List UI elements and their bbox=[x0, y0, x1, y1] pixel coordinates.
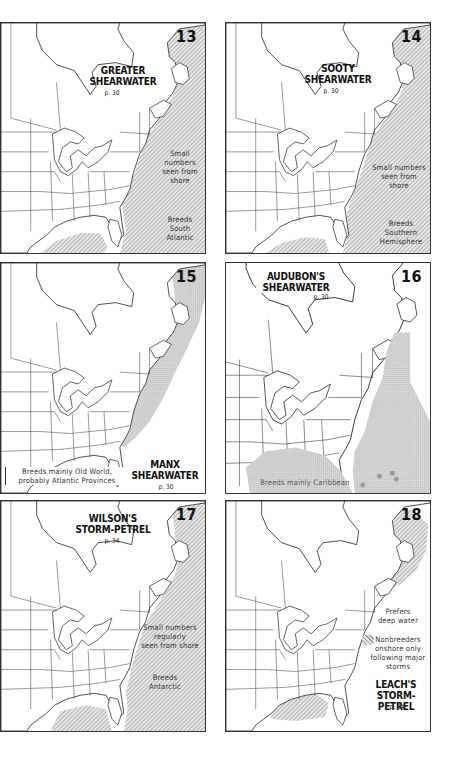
map-note-2: BreedsSouthAtlantic bbox=[153, 215, 206, 242]
species-name: GREATERSHEARWATER bbox=[73, 65, 173, 87]
species-name: WILSON'SSTORM-PETREL bbox=[63, 513, 163, 535]
page-reference: p. 34 bbox=[97, 537, 127, 545]
map-panel-16: 16 AUDUBON'SSHEARWATER p. 30 Breeds main… bbox=[225, 262, 431, 494]
map-panel-14: 14 SOOTYSHEARWATER p. 30 Small numbersse… bbox=[225, 22, 431, 254]
map-number: 14 bbox=[401, 27, 422, 46]
map-note-2: BreedsAntarctic bbox=[135, 673, 195, 691]
map-panel-13: 13 GREATERSHEARWATER p. 30 Smallnumberss… bbox=[0, 22, 206, 254]
species-name: MANXSHEARWATER bbox=[125, 459, 205, 481]
map-number: 15 bbox=[176, 267, 197, 286]
map-note-1: Breeds mainly Caribbean bbox=[250, 478, 360, 487]
map-note-1: Small numbersseen fromshore bbox=[366, 163, 431, 190]
page-reference: p. 30 bbox=[316, 87, 346, 95]
map-note-1: Breeds mainly Old World,probably Atlanti… bbox=[5, 467, 126, 485]
map-number: 16 bbox=[401, 267, 422, 286]
species-name: AUDUBON'SSHEARWATER bbox=[256, 271, 336, 293]
map-note-2: Nonbreedersonshore onlyfollowing majorst… bbox=[366, 635, 430, 671]
range-map bbox=[1, 501, 205, 731]
map-number: 18 bbox=[401, 505, 422, 524]
map-panel-15: 15 MANXSHEARWATER p. 30 Breeds mainly Ol… bbox=[0, 262, 206, 494]
range-area-gulf bbox=[41, 233, 108, 253]
map-note-2: BreedsSouthernHemisphere bbox=[372, 219, 430, 246]
map-number: 17 bbox=[176, 505, 197, 524]
page-reference: p. 30 bbox=[97, 89, 127, 97]
map-panel-18: 18 Prefersdeep water Nonbreedersonshore … bbox=[225, 500, 431, 732]
map-panel-17: 17 WILSON'SSTORM-PETREL p. 34 Small numb… bbox=[0, 500, 206, 732]
map-number: 13 bbox=[176, 27, 197, 46]
page-reference: p. 34 bbox=[382, 703, 412, 711]
species-name: SOOTYSHEARWATER bbox=[288, 63, 388, 85]
page-reference: p. 30 bbox=[306, 293, 336, 301]
page-reference: p. 30 bbox=[151, 483, 181, 491]
map-note-1: Prefersdeep water bbox=[366, 607, 430, 625]
map-note-1: Smallnumbersseen fromshore bbox=[153, 149, 206, 185]
map-note-1: Small numbersregularlyseen from shore bbox=[135, 623, 205, 650]
